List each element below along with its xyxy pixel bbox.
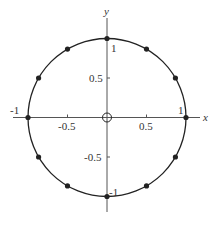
x-tick-label-pos05: 0.5 [139, 120, 153, 132]
data-point [144, 183, 149, 188]
y-tick-label-pos05: 0.5 [89, 72, 103, 84]
data-point [65, 183, 70, 188]
data-point [36, 154, 41, 159]
x-tick-label-neg1: -1 [10, 104, 19, 116]
data-point [183, 115, 188, 120]
data-point [104, 36, 109, 41]
y-tick-label-pos1: 1 [111, 42, 117, 54]
data-point [173, 154, 178, 159]
data-point [144, 46, 149, 51]
y-axis-label: y [103, 5, 109, 17]
x-tick-label-pos1: 1 [178, 104, 184, 116]
data-point [36, 75, 41, 80]
y-tick-label-neg1: -1 [109, 186, 118, 198]
plot-canvas: x y -1 -0.5 0.5 1 1 0.5 -0.5 -1 [0, 0, 219, 228]
data-point [173, 75, 178, 80]
data-point [25, 115, 30, 120]
x-tick-label-neg05: -0.5 [58, 120, 76, 132]
x-axis-label: x [202, 111, 208, 123]
data-point [65, 46, 70, 51]
y-tick-label-neg05: -0.5 [84, 151, 102, 163]
unit-circle-plot: x y -1 -0.5 0.5 1 1 0.5 -0.5 -1 [0, 0, 219, 228]
